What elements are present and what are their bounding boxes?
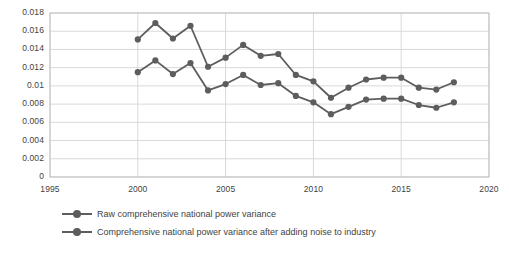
data-point — [223, 55, 229, 61]
data-point — [433, 105, 439, 111]
legend-dot-icon — [73, 210, 81, 218]
data-point — [187, 23, 193, 29]
data-point — [240, 72, 246, 78]
data-point — [170, 35, 176, 41]
data-point — [152, 20, 158, 26]
data-point — [187, 60, 193, 66]
data-point — [152, 57, 158, 63]
data-point — [381, 96, 387, 102]
data-point — [363, 96, 369, 102]
data-point — [205, 87, 211, 93]
data-point — [135, 36, 141, 42]
data-point — [258, 53, 264, 59]
data-point — [398, 96, 404, 102]
data-point — [451, 99, 457, 105]
chart-container: 00.0020.0040.0060.0080.010.0120.0140.016… — [0, 0, 509, 254]
data-point — [345, 85, 351, 91]
legend-label-noise: Comprehensive national power variance af… — [97, 226, 376, 238]
legend-dot-icon — [73, 228, 81, 236]
data-point — [363, 76, 369, 82]
data-point — [345, 104, 351, 110]
chart-legend: Raw comprehensive national power varianc… — [62, 205, 376, 241]
plot-border — [50, 13, 489, 177]
data-point — [398, 75, 404, 81]
data-point — [328, 95, 334, 101]
data-point — [416, 102, 422, 108]
data-point — [258, 82, 264, 88]
data-point — [275, 80, 281, 86]
series-line-0 — [138, 23, 454, 98]
data-point — [135, 69, 141, 75]
data-point — [433, 86, 439, 92]
legend-label-raw: Raw comprehensive national power varianc… — [97, 208, 276, 220]
legend-marker-raw — [62, 208, 92, 220]
data-point — [416, 85, 422, 91]
series-line-1 — [138, 60, 454, 114]
legend-item-raw: Raw comprehensive national power varianc… — [62, 205, 376, 223]
data-point — [170, 71, 176, 77]
data-point — [293, 93, 299, 99]
data-point — [275, 51, 281, 57]
data-point — [310, 99, 316, 105]
data-point — [381, 75, 387, 81]
data-point — [223, 81, 229, 87]
data-point — [240, 42, 246, 48]
legend-item-noise: Comprehensive national power variance af… — [62, 223, 376, 241]
data-point — [310, 78, 316, 84]
data-point — [328, 111, 334, 117]
data-point — [293, 72, 299, 78]
data-point — [205, 64, 211, 70]
data-point — [451, 79, 457, 85]
legend-marker-noise — [62, 226, 92, 238]
